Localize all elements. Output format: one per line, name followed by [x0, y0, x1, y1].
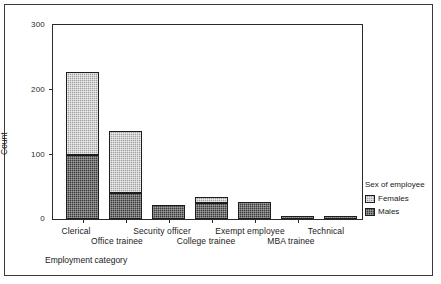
legend-item-females[interactable]: Females [365, 194, 433, 203]
x-tick-mark-3 [169, 219, 170, 223]
x-category-label-clerical: Clerical [43, 226, 109, 236]
x-tick-mark-1 [83, 219, 84, 223]
plot-area [52, 25, 362, 219]
y-tick-label-200: 200 [11, 85, 45, 94]
y-tick-label-300: 300 [11, 20, 45, 29]
bar-office-trainee[interactable] [109, 131, 142, 219]
bar-college-trainee[interactable] [195, 197, 228, 219]
bar-segment-males [324, 216, 357, 219]
bar-segment-females [66, 72, 99, 155]
legend-label-females: Females [378, 194, 409, 203]
legend: Sex of employee Females Males [365, 180, 433, 216]
bar-clerical[interactable] [66, 72, 99, 219]
x-category-label-office-trainee: Office trainee [82, 236, 152, 246]
x-category-label-security-officer: Security officer [123, 226, 201, 236]
bar-segment-males [195, 203, 228, 219]
x-axis-title: Employment category [45, 255, 127, 265]
bar-segment-females [109, 131, 142, 193]
x-tick-mark-5 [255, 219, 256, 223]
legend-label-males: Males [378, 207, 399, 216]
x-category-label-technical: Technical [293, 226, 359, 236]
bar-segment-males [238, 202, 271, 219]
bar-security-officer[interactable] [152, 205, 185, 219]
y-tick-label-100: 100 [11, 150, 45, 159]
x-category-label-mba-trainee: MBA trainee [257, 236, 325, 246]
bar-segment-males [109, 193, 142, 219]
x-tick-mark-6 [298, 219, 299, 223]
legend-swatch-females [365, 195, 375, 203]
x-tick-mark-4 [212, 219, 213, 223]
legend-item-males[interactable]: Males [365, 207, 433, 216]
bar-segment-males [66, 155, 99, 219]
bar-exempt-employee[interactable] [238, 202, 271, 219]
y-tick-label-0: 0 [11, 214, 45, 223]
x-category-label-exempt-employee: Exempt employee [208, 226, 292, 236]
bar-segment-males [152, 205, 185, 219]
plot-right-border [362, 24, 363, 220]
bar-technical[interactable] [324, 216, 357, 219]
x-category-label-college-trainee: College trainee [169, 236, 243, 246]
x-tick-mark-2 [126, 219, 127, 223]
legend-swatch-males [365, 208, 375, 216]
x-axis-line [52, 219, 363, 220]
chart-frame: 300 200 100 0 [4, 4, 433, 276]
legend-title: Sex of employee [365, 180, 433, 189]
y-axis-title: Count [0, 132, 9, 155]
bar-segment-females [195, 197, 228, 203]
